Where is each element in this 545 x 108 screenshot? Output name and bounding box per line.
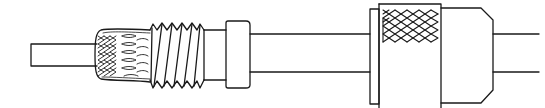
coupling-ring [370,4,441,108]
cable-jacket [250,34,370,72]
ferrule-collar [226,21,250,88]
threaded-ferrule [150,23,226,88]
cable-center-stub [31,44,97,66]
shield-braid [95,29,150,82]
cable-exit [493,34,539,72]
connector-diagram: Coaxial cable connector assembly (line d… [0,0,545,108]
connector-body [441,8,493,103]
